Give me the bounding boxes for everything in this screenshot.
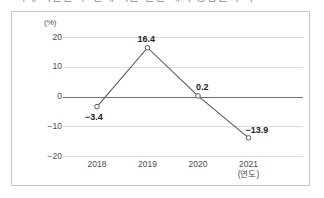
point-label-2018: −3.4 <box>85 112 103 122</box>
caption-text: ○ 가계 지출을 구 분에 따른 전년 대비 증감률 추이 <box>4 0 254 4</box>
plot-area: (%) 20 10 0 −10 −20 2018 2019 2020 2021 … <box>12 12 311 187</box>
series-line <box>12 12 311 187</box>
point-label-2021: −13.9 <box>246 125 269 135</box>
point-label-2019: 16.4 <box>138 34 156 44</box>
chart-frame: (%) 20 10 0 −10 −20 2018 2019 2020 2021 … <box>11 11 310 186</box>
caption-strip: ○ 가계 지출을 구 분에 따른 전년 대비 증감률 추이 <box>0 0 324 9</box>
point-label-2020: 0.2 <box>196 82 209 92</box>
